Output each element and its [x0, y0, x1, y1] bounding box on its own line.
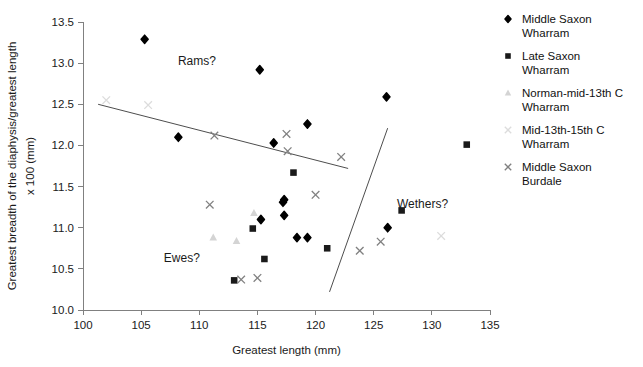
data-point [175, 133, 182, 141]
data-point [254, 274, 262, 282]
data-point [290, 169, 297, 176]
data-point [237, 276, 245, 284]
data-point [270, 139, 277, 147]
series-4 [206, 130, 385, 283]
group-divider-line [330, 128, 388, 292]
legend-marker-glyph [505, 15, 511, 22]
x-axis-title: Greatest length (mm) [232, 344, 341, 356]
data-point [231, 277, 238, 284]
data-point [304, 233, 311, 241]
x-tick-label: 135 [480, 319, 499, 331]
data-point [249, 225, 256, 232]
data-point [211, 132, 219, 140]
data-point [312, 191, 320, 199]
regression-line [98, 104, 348, 168]
data-point [233, 237, 241, 244]
data-point [293, 233, 300, 241]
cross-marker-icon [500, 160, 522, 175]
scatter-chart: 10010511011512012513013510.010.511.011.5… [0, 0, 643, 367]
diamond-marker-icon [500, 12, 522, 27]
data-point [281, 211, 288, 219]
legend-item[interactable]: Norman-mid-13th C Wharram [500, 86, 640, 114]
data-point [283, 130, 291, 138]
data-point [384, 224, 391, 232]
y-tick-label: 13.0 [52, 57, 74, 69]
data-point [144, 101, 152, 109]
legend-item-label: Middle Saxon Burdale [522, 160, 592, 188]
y-tick-label: 10.5 [52, 263, 74, 275]
y-tick-label: 12.5 [52, 98, 74, 110]
data-point [383, 93, 390, 101]
x-tick-label: 125 [364, 319, 383, 331]
legend-marker-glyph [505, 53, 511, 59]
x-tick-label: 110 [190, 319, 208, 331]
data-point [261, 256, 268, 263]
legend-item-label: Norman-mid-13th C Wharram [522, 86, 623, 114]
data-point [256, 66, 263, 74]
x-tick-label: 100 [73, 319, 92, 331]
legend-item[interactable]: Mid-13th-15th C Wharram [500, 123, 640, 151]
cross-marker-icon [500, 123, 522, 138]
triangle-marker-icon [500, 86, 522, 101]
data-point [206, 201, 214, 209]
square-marker-icon [500, 49, 522, 64]
y-axis-title-line1: Greatest breadth of the diaphysis/greate… [6, 42, 18, 291]
legend-marker-glyph [505, 90, 511, 96]
legend-marker-glyph [505, 164, 511, 170]
series-3 [102, 96, 445, 239]
x-tick-label: 120 [306, 319, 325, 331]
legend-item[interactable]: Middle Saxon Burdale [500, 160, 640, 188]
y-tick-label: 10.0 [52, 304, 74, 316]
data-point [377, 238, 385, 246]
chart-legend: Middle Saxon WharramLate Saxon WharramNo… [500, 12, 640, 197]
data-point [304, 120, 311, 128]
data-point [324, 245, 331, 252]
legend-item-label: Mid-13th-15th C Wharram [522, 123, 604, 151]
data-point [463, 141, 470, 148]
data-point [284, 147, 292, 155]
y-axis-title-line2: x 100 (mm) [24, 137, 36, 195]
data-point [250, 209, 258, 216]
annotation-wethers: Wethers? [397, 197, 448, 211]
legend-item[interactable]: Middle Saxon Wharram [500, 12, 640, 40]
data-point [102, 96, 110, 104]
legend-item-label: Middle Saxon Wharram [522, 12, 592, 40]
x-tick-label: 130 [422, 319, 441, 331]
data-point [437, 232, 445, 240]
annotation-rams: Rams? [178, 54, 216, 68]
data-point [209, 234, 217, 241]
x-tick-label: 115 [248, 319, 266, 331]
legend-item-label: Late Saxon Wharram [522, 49, 580, 77]
y-tick-label: 11.5 [52, 181, 74, 193]
series-1 [231, 141, 470, 283]
data-point [356, 247, 364, 255]
x-tick-label: 105 [132, 319, 151, 331]
legend-marker-glyph [505, 127, 511, 133]
data-point [257, 215, 264, 223]
legend-item[interactable]: Late Saxon Wharram [500, 49, 640, 77]
y-tick-label: 11.0 [52, 222, 74, 234]
data-point [337, 153, 345, 161]
annotation-ewes: Ewes? [164, 251, 200, 265]
data-point [141, 35, 148, 43]
y-tick-label: 13.5 [52, 16, 74, 28]
y-tick-label: 12.0 [52, 139, 74, 151]
